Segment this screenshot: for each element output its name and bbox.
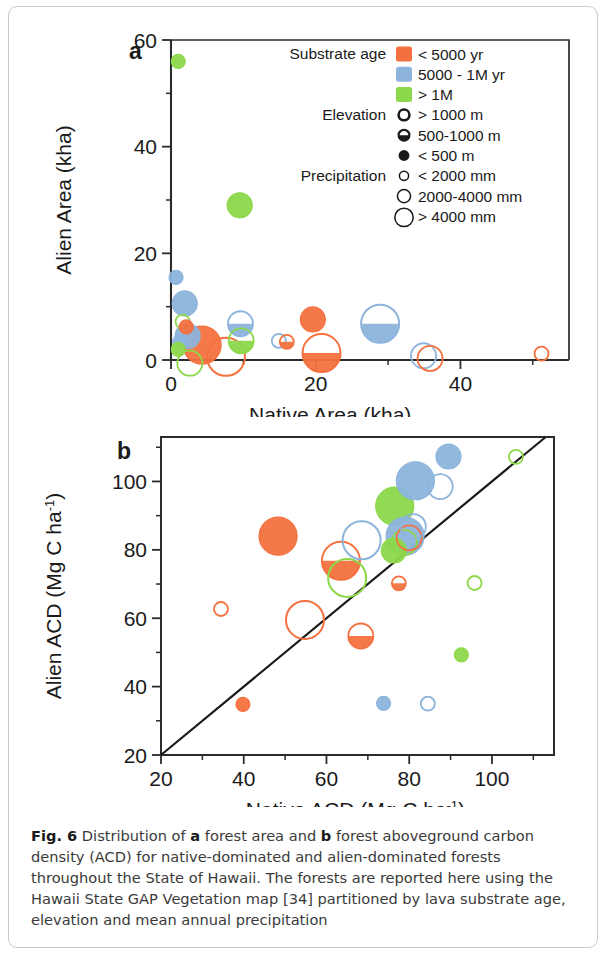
panel-a-legend: Substrate age< 5000 yr5000 - 1M yr> 1MEl…	[289, 45, 522, 227]
marker-ring	[286, 601, 324, 639]
panel-a-x-ticklabel: 40	[449, 372, 472, 395]
y-title-sup: -1	[42, 500, 57, 512]
panel-b-datapoint	[468, 576, 482, 590]
panel-b-plot: b2040608010020406080100Native ACD (Mg C …	[9, 407, 599, 807]
caption-ref-a: a	[190, 827, 200, 844]
legend-swatch-medium-circle	[397, 190, 410, 203]
panel-b-y-axis-title-text: Alien ACD (Mg C ha-1)	[42, 493, 65, 699]
marker-ring	[421, 697, 435, 711]
legend-swatch-filled-circle	[399, 150, 410, 161]
panel-a-forest-area: a020406002040Native Area (kha)Alien Area…	[9, 7, 599, 417]
marker-disc	[227, 193, 252, 218]
marker-disc	[179, 320, 193, 334]
caption-seg-1: Distribution of	[82, 827, 190, 844]
legend-swatch-green-square	[396, 87, 412, 102]
caption-ref-b: b	[321, 827, 331, 844]
marker-disc	[259, 517, 297, 555]
panel-a-datapoint	[535, 347, 549, 361]
legend-swatch-large-circle	[395, 208, 413, 226]
marker-ring	[214, 602, 228, 616]
panel-a-datapoint	[171, 54, 185, 68]
x-title-base: Native ACD (Mg C ha	[246, 798, 447, 807]
panel-b-x-axis-title: Native ACD (Mg C ha-1)	[246, 798, 465, 807]
panel-b-x-axis-title-text: Native ACD (Mg C ha-1)	[246, 798, 465, 807]
panel-b-datapoint	[392, 576, 406, 590]
panel-b-datapoint	[286, 601, 324, 639]
legend-swatch-blue-square	[396, 67, 412, 82]
marker-ring	[343, 521, 381, 559]
legend-item-label: > 4000 mm	[418, 208, 496, 225]
panel-b-y-ticklabel: 60	[124, 607, 147, 630]
panel-b-datapoint	[377, 696, 391, 710]
panel-b-y-axis-title: Alien ACD (Mg C ha-1)	[42, 493, 65, 699]
panel-b-datapoint	[343, 521, 381, 559]
panel-b-datapoint	[454, 648, 468, 662]
legend-item-label: < 5000 yr	[418, 46, 483, 63]
legend-item-label: < 2000 mm	[418, 167, 496, 184]
panel-a-datapoint	[227, 193, 252, 218]
panel-b-forest-acd: b2040608010020406080100Native ACD (Mg C …	[9, 407, 599, 807]
panel-b-x-ticklabel: 80	[398, 767, 421, 790]
panel-a-y-ticklabel: 0	[145, 349, 157, 372]
marker-disc	[454, 648, 468, 662]
panel-b-y-ticklabel: 100	[112, 470, 147, 493]
panel-b-letter: b	[117, 438, 131, 464]
panel-a-datapoint	[169, 270, 183, 284]
panel-a-y-axis-title: Alien Area (kha)	[52, 125, 75, 274]
marker-disc	[171, 54, 185, 68]
marker-disc	[169, 270, 183, 284]
legend-item-label: > 1M	[418, 86, 453, 103]
marker-disc	[436, 444, 461, 469]
x-title-sup: -1	[447, 798, 459, 807]
y-title-tail: )	[42, 493, 65, 500]
panel-b-y-ticklabel: 80	[124, 538, 147, 561]
panel-a-datapoint	[172, 291, 197, 316]
panel-b-y-ticklabel: 40	[124, 675, 147, 698]
panel-a-datapoint	[179, 320, 193, 334]
marker-disc	[171, 342, 185, 356]
marker-disc	[172, 291, 197, 316]
y-title-base: Alien ACD (Mg C ha	[42, 511, 65, 699]
marker-disc	[300, 307, 325, 332]
marker-disc	[377, 696, 391, 710]
panel-b-datapoint	[421, 697, 435, 711]
panel-a-x-ticklabel: 0	[165, 372, 177, 395]
figure-caption: Fig. 6 Distribution of a forest area and…	[31, 825, 583, 930]
panel-b-datapoint	[236, 697, 250, 711]
legend-item-label: < 500 m	[418, 147, 474, 164]
panel-a-datapoint	[303, 334, 341, 372]
panel-a-datapoint	[171, 342, 185, 356]
legend-item-label: 2000-4000 mm	[418, 188, 522, 205]
marker-ring	[468, 576, 482, 590]
panel-a-x-ticklabel: 20	[304, 372, 327, 395]
figure-number: Fig. 6	[31, 827, 77, 844]
panel-b-x-ticklabel: 100	[474, 767, 509, 790]
panel-b-x-ticklabel: 60	[315, 767, 338, 790]
legend-swatch-orange-square	[396, 47, 412, 62]
figure-card: a020406002040Native Area (kha)Alien Area…	[8, 6, 598, 948]
legend-item-label: 500-1000 m	[418, 127, 501, 144]
panel-a-datapoint	[300, 307, 325, 332]
marker-disc	[236, 697, 250, 711]
legend-group-title: Precipitation	[301, 167, 386, 184]
panel-a-plot: a020406002040Native Area (kha)Alien Area…	[9, 7, 599, 417]
legend-group-title: Elevation	[322, 106, 386, 123]
panel-b-datapoint	[348, 624, 373, 649]
legend-item-label: 5000 - 1M yr	[418, 66, 505, 83]
panel-a-y-ticklabel: 60	[134, 29, 157, 52]
caption-seg-2: forest area and	[200, 827, 321, 844]
panel-a-y-ticklabel: 20	[134, 242, 157, 265]
panel-b-datapoint	[436, 444, 461, 469]
legend-swatch-open-circle	[399, 110, 410, 121]
legend-group-title: Substrate age	[289, 45, 386, 62]
panel-a-datapoint	[361, 305, 399, 343]
legend-swatch-small-circle	[399, 171, 408, 180]
marker-ring	[535, 347, 549, 361]
panel-b-datapoint	[259, 517, 297, 555]
panel-a-datapoint	[280, 335, 294, 349]
x-title-tail: )	[458, 798, 465, 807]
panel-a-y-ticklabel: 40	[134, 135, 157, 158]
panel-b-datapoint	[214, 602, 228, 616]
panel-b-x-ticklabel: 20	[149, 767, 172, 790]
panel-b-x-ticklabel: 40	[232, 767, 255, 790]
